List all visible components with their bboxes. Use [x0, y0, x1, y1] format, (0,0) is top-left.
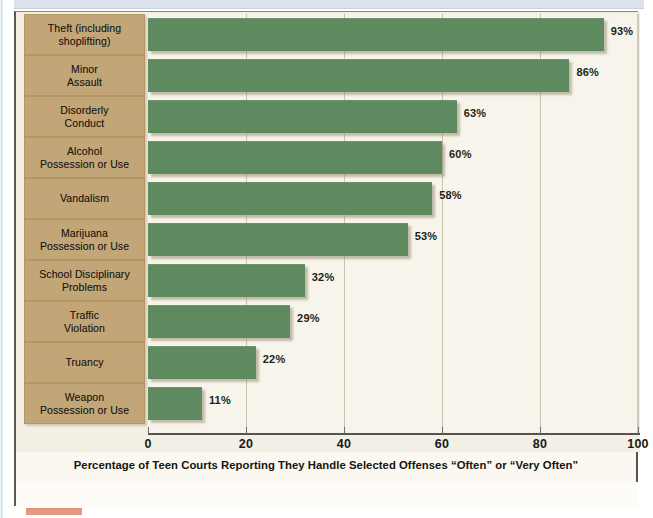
category-label-box: DisorderlyConduct: [24, 96, 145, 137]
bar: [148, 305, 290, 338]
bar-value-label: 32%: [312, 271, 335, 283]
bar-row: AlcoholPossession or Use60%: [16, 137, 640, 178]
category-label-text: MarijuanaPossession or Use: [38, 227, 131, 252]
bar-value-label: 63%: [464, 107, 487, 119]
bar: [148, 100, 457, 133]
bar-value-label: 22%: [263, 353, 286, 365]
bar-value-label: 11%: [209, 394, 231, 406]
bar: [148, 387, 202, 420]
bar: [148, 264, 305, 297]
page-accent-marker: [26, 508, 82, 515]
category-label-box: Truancy: [24, 342, 145, 383]
axis-tick-label-80: 80: [520, 437, 560, 451]
axis-tick-100: [638, 427, 639, 434]
x-axis-title: Percentage of Teen Courts Reporting They…: [16, 459, 636, 471]
bar-row: TrafficViolation29%: [16, 301, 640, 342]
bar-value-label: 58%: [439, 189, 462, 201]
bar-track: 63%: [148, 96, 639, 137]
axis-tick-60: [442, 427, 443, 434]
bar-row: Theft (includingshoplifting)93%: [16, 14, 640, 55]
page-scan-edge: [0, 0, 3, 518]
axis-tick-80: [540, 427, 541, 434]
category-label-text: Truancy: [63, 356, 105, 369]
bar: [148, 346, 256, 379]
bar-track: 29%: [148, 301, 639, 342]
category-label-box: WeaponPossession or Use: [24, 383, 145, 424]
bar-row: School DisciplinaryProblems32%: [16, 260, 640, 301]
category-label-box: AlcoholPossession or Use: [24, 137, 145, 178]
category-label-box: MarijuanaPossession or Use: [24, 219, 145, 260]
bar-track: 58%: [148, 178, 639, 219]
bar-row: MinorAssault86%: [16, 55, 640, 96]
bar-value-label: 60%: [449, 148, 472, 160]
bar-value-label: 86%: [576, 66, 599, 78]
category-label-text: Theft (includingshoplifting): [46, 22, 123, 47]
category-label-text: AlcoholPossession or Use: [38, 145, 131, 170]
category-label-box: TrafficViolation: [24, 301, 145, 342]
bar-row: MarijuanaPossession or Use53%: [16, 219, 640, 260]
bar-track: 22%: [148, 342, 639, 383]
x-axis-line: [148, 433, 640, 435]
axis-tick-label-0: 0: [128, 437, 168, 451]
bar: [148, 141, 442, 174]
bar: [148, 182, 432, 215]
category-label-box: MinorAssault: [24, 55, 145, 96]
category-label-text: WeaponPossession or Use: [38, 391, 131, 416]
category-label-text: DisorderlyConduct: [58, 104, 110, 129]
axis-tick-label-60: 60: [422, 437, 462, 451]
category-label-box: Vandalism: [24, 178, 145, 219]
bar-chart-figure: Theft (includingshoplifting)93%MinorAssa…: [14, 11, 638, 506]
bar-track: 93%: [148, 14, 639, 55]
category-label-box: Theft (includingshoplifting): [24, 14, 145, 55]
bar: [148, 18, 604, 51]
bar-row: DisorderlyConduct63%: [16, 96, 640, 137]
category-label-text: School DisciplinaryProblems: [37, 268, 132, 293]
bar-track: 60%: [148, 137, 639, 178]
bar-value-label: 29%: [297, 312, 320, 324]
chart-body: Theft (includingshoplifting)93%MinorAssa…: [16, 12, 640, 452]
axis-tick-0: [148, 427, 149, 434]
bar-track: 32%: [148, 260, 639, 301]
bar-track: 53%: [148, 219, 639, 260]
axis-tick-label-20: 20: [226, 437, 266, 451]
category-label-text: Vandalism: [58, 192, 111, 205]
bar-value-label: 93%: [611, 25, 634, 37]
figure-bottom-margin: [16, 482, 638, 507]
bar-value-label: 53%: [415, 230, 438, 242]
bar-row: Truancy22%: [16, 342, 640, 383]
bar-row: Vandalism58%: [16, 178, 640, 219]
top-banner-strip: [14, 0, 644, 9]
axis-tick-40: [344, 427, 345, 434]
category-label-text: MinorAssault: [65, 63, 104, 88]
bar-track: 86%: [148, 55, 639, 96]
bar-track: 11%: [148, 383, 639, 424]
axis-tick-label-100: 100: [618, 437, 653, 451]
category-label-box: School DisciplinaryProblems: [24, 260, 145, 301]
bar: [148, 223, 408, 256]
axis-tick-20: [246, 427, 247, 434]
category-label-text: TrafficViolation: [62, 309, 107, 334]
bar-row: WeaponPossession or Use11%: [16, 383, 640, 424]
axis-tick-label-40: 40: [324, 437, 364, 451]
bar: [148, 59, 569, 92]
